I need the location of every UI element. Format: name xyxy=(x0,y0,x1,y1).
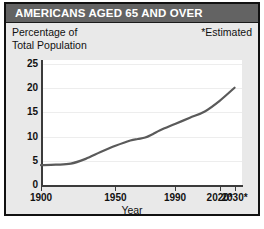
plot-area xyxy=(41,60,242,185)
y-tick-label: 5 xyxy=(12,155,38,166)
y-tick-label: 25 xyxy=(12,58,38,69)
x-tick xyxy=(175,186,176,191)
x-tick xyxy=(41,186,42,191)
x-tick-label: 1990 xyxy=(164,192,186,203)
x-tick xyxy=(220,186,221,191)
y-tick-label: 10 xyxy=(12,131,38,142)
x-tick-label: 1950 xyxy=(104,192,126,203)
x-tick-label: 1900 xyxy=(30,192,52,203)
estimated-footnote: *Estimated xyxy=(201,26,252,38)
x-axis-line xyxy=(41,185,243,187)
chart-subtitle: Percentage of Total Population xyxy=(12,26,87,51)
y-tick-label: 0 xyxy=(12,179,38,190)
gridline xyxy=(41,112,242,113)
chart-figure: AMERICANS AGED 65 AND OVER Percentage of… xyxy=(0,0,264,229)
x-tick xyxy=(115,186,116,191)
y-tick-label: 20 xyxy=(12,82,38,93)
gridline xyxy=(41,64,242,65)
subtitle-line-2: Total Population xyxy=(12,39,87,52)
y-axis-line xyxy=(41,60,43,186)
x-tick xyxy=(235,186,236,191)
x-axis-title: Year xyxy=(0,204,264,216)
x-tick-label: 2030* xyxy=(221,192,247,203)
gridline xyxy=(41,161,242,162)
gridline xyxy=(41,137,242,138)
gridline xyxy=(41,88,242,89)
subtitle-line-1: Percentage of xyxy=(12,26,87,39)
y-tick-label: 15 xyxy=(12,106,38,117)
chart-title-bar: AMERICANS AGED 65 AND OVER xyxy=(6,4,258,23)
page-title: AMERICANS AGED 65 AND OVER xyxy=(6,7,203,19)
